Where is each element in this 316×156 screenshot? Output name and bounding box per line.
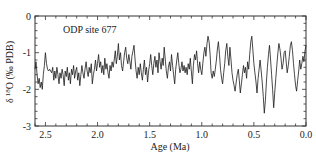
x-tick-label: 0.0 [300,129,313,140]
x-tick-label: 1.5 [143,129,156,140]
isotope-trace-line [35,36,306,113]
y-tick-label: -3 [23,121,31,132]
x-axis-title: Age (Ma) [150,141,189,153]
site-annotation: ODP site 677 [63,24,117,35]
y-tick-labels: 0-1-2-3 [23,11,31,132]
y-tick-label: 0 [26,11,31,22]
y-tick-label: -1 [23,47,31,58]
x-tick-label: 2.5 [39,129,52,140]
y-axis-unit: O (‰ PDB) [4,41,16,89]
y-axis-title: δ18O (‰ PDB) [4,41,16,103]
x-tick-labels: 2.52.01.51.00.50.0 [39,129,312,140]
y-axis-delta: δ [4,98,15,103]
y-tick-label: -2 [23,84,31,95]
isotope-chart: 2.52.01.51.00.50.0 0-1-2-3 ODP site 677 … [0,0,316,156]
x-tick-label: 2.0 [91,129,104,140]
x-tick-label: 0.5 [248,129,261,140]
x-tick-label: 1.0 [196,129,209,140]
